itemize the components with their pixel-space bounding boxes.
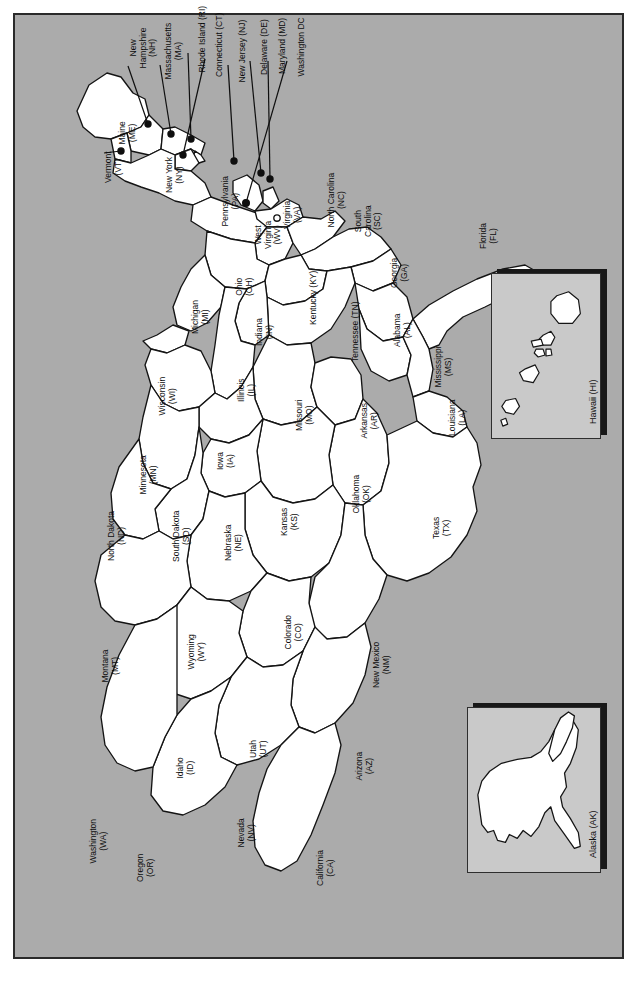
island-oahu [519, 365, 539, 383]
state-label-ok: Oklahoma(OK) [352, 475, 371, 514]
state-label-wi: Wisconsin(WI) [158, 377, 177, 416]
state-label-nd: North Dakota(ND) [107, 511, 126, 561]
state-label-ga: Georgia(GA) [390, 258, 409, 288]
state-label-ri: Rhode Island (RI) [198, 6, 208, 73]
state-label-mn: Minnesota(MN) [139, 455, 158, 494]
state-label-id: Idaho(ID) [176, 757, 195, 778]
state-label-vt: Vermont(VT) [104, 151, 123, 183]
state-label-ar: Arkansas(AR) [360, 403, 379, 438]
island-kahoolawe [534, 349, 545, 357]
state-label-ut: Utah(UT) [249, 740, 268, 758]
state-label-ct: Connecticut (CT) [215, 13, 225, 77]
state-label-va: Virginia(VA) [283, 201, 302, 229]
state-label-az: Arizona(AZ) [355, 752, 374, 781]
alaska-inset: Alaska (AK) [467, 707, 601, 873]
state-label-al: Alabama(AL) [393, 313, 412, 347]
state-label-ia: Iowa(IA) [216, 452, 235, 470]
state-label-ks: Kansas(KS) [280, 508, 299, 536]
state-label-sc: SouthCarolina(SC) [354, 205, 383, 237]
state-label-pa: Pennsylvania(PA) [221, 176, 240, 227]
hawaii-islands-svg [492, 274, 600, 438]
leader-NJ [228, 65, 234, 161]
dot-NH [145, 121, 151, 127]
state-label-co: Colorado(CO) [284, 615, 303, 650]
dot-RI [188, 136, 194, 142]
dot-MA [168, 131, 174, 137]
map-frame: Hawaii (HI) Alaska (AK) Maine(ME)NewHamp… [13, 13, 624, 959]
hawaii-inset-label: Hawaii (HI) [588, 379, 598, 424]
state-label-ny: New York(NY) [165, 157, 184, 193]
figure-root: Hawaii (HI) Alaska (AK) Maine(ME)NewHamp… [0, 0, 637, 991]
island-kauai [502, 398, 520, 414]
state-label-md: Maryland (MD) [278, 18, 288, 74]
state-label-nc: North Carolina(NC) [327, 173, 346, 228]
dot-MD [267, 176, 273, 182]
dot-DE [258, 170, 264, 176]
state-label-nm: New Mexico(NM) [372, 642, 391, 688]
state-label-wa: Washington(WA) [89, 819, 108, 864]
state-label-in: Indiana(IN) [255, 318, 274, 346]
state-label-dc: Washington DC [297, 17, 307, 76]
state-label-tn: Tennessee (TN) [351, 302, 361, 362]
state-label-nh: NewHampshire(NH) [129, 27, 158, 68]
state-label-nv: Nevada(NV) [237, 818, 256, 847]
state-label-fl: Florida(FL) [479, 223, 498, 249]
alaska-inset-label: Alaska (AK) [588, 810, 598, 858]
state-label-il: Illinois(IL) [237, 378, 256, 402]
state-label-me: Maine(ME) [118, 121, 137, 144]
state-label-or: Oregon(OR) [136, 854, 155, 882]
state-label-nj: New Jersey (NJ) [238, 20, 248, 83]
dot-DC [243, 200, 250, 207]
state-label-wy: Wyoming(WY) [187, 634, 206, 669]
state-MA [161, 127, 205, 155]
state-label-mt: Montana(MT) [101, 649, 120, 682]
state-label-wv: WestVirginia(WV) [254, 221, 283, 249]
island-lanai [546, 349, 552, 356]
state-label-ky: Kentucky (KY) [309, 271, 319, 325]
alaska-shape-svg [468, 708, 600, 872]
island-hawaii-big [551, 292, 580, 324]
hawaii-inset: Hawaii (HI) [491, 273, 601, 439]
state-label-ne: Nebraska(NE) [224, 525, 243, 561]
state-label-oh: Ohio(OH) [235, 278, 254, 296]
state-label-de: Delaware (DE) [260, 19, 270, 75]
state-label-tx: Texas(TX) [432, 517, 451, 539]
state-label-sd: South Dakota(SD) [172, 510, 191, 562]
dot-NJ [231, 158, 237, 164]
state-label-mo: Missouri(MO) [295, 399, 314, 431]
island-niihau [501, 418, 508, 426]
state-label-ms: Mississippi(MS) [434, 346, 453, 387]
state-label-mi: Michigan(MI) [191, 300, 210, 334]
island-molokai [531, 339, 543, 347]
state-label-ma: Massachusetts(MA) [164, 23, 183, 80]
state-label-ca: California(CA) [316, 850, 335, 886]
state-label-la: Louisiana(LA) [448, 400, 467, 436]
